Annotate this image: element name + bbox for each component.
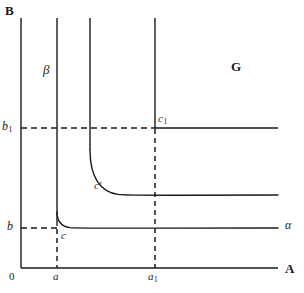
economics-indifference-diagram: B A 0 β G b1 b a a1 c c1 c′ α bbox=[0, 0, 304, 293]
origin-label: 0 bbox=[9, 271, 15, 282]
a1-tick-base: a bbox=[148, 270, 154, 282]
diagram-canvas bbox=[0, 0, 304, 293]
point-c1-label: c1 bbox=[158, 113, 167, 126]
x-axis-label: A bbox=[285, 262, 294, 275]
beta-label: β bbox=[43, 63, 49, 76]
b1-tick-label: b1 bbox=[2, 120, 12, 134]
b-tick-label: b bbox=[7, 220, 13, 232]
curve-alpha bbox=[57, 212, 278, 228]
curve-alpha-label: α bbox=[285, 219, 291, 231]
b1-tick-subscript: 1 bbox=[8, 125, 12, 134]
a1-tick-subscript: 1 bbox=[154, 276, 158, 284]
point-c-label: c bbox=[61, 230, 66, 241]
point-c1-subscript: 1 bbox=[163, 118, 167, 126]
curve-c-prime-label: c′ bbox=[94, 180, 101, 191]
y-axis-label: B bbox=[5, 4, 14, 17]
curve-c-prime bbox=[90, 150, 278, 195]
region-g-label: G bbox=[231, 60, 241, 73]
a-tick-label: a bbox=[53, 271, 59, 282]
a1-tick-label: a1 bbox=[148, 271, 158, 284]
